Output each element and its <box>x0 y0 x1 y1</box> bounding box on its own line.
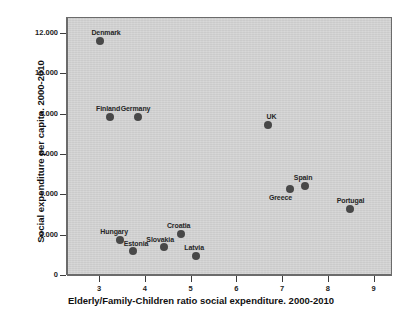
x-axis-tick-label: 6 <box>221 284 251 293</box>
data-point <box>134 113 142 121</box>
data-point <box>129 247 137 255</box>
x-axis-tick-label: 8 <box>313 284 343 293</box>
data-point-label: Denmark <box>91 29 120 37</box>
x-axis-tick <box>145 276 146 282</box>
scatter-chart: DenmarkFinlandGermanyUKGreeceSpainPortug… <box>0 0 402 315</box>
x-axis-tick <box>282 276 283 282</box>
y-axis-tick-label: 0 <box>54 271 58 279</box>
y-axis-tick <box>60 194 66 195</box>
data-point-label: Croatia <box>167 222 190 230</box>
x-axis-tick <box>99 276 100 282</box>
y-axis-tick <box>60 275 66 276</box>
plot-area: DenmarkFinlandGermanyUKGreeceSpainPortug… <box>67 17 392 275</box>
x-axis-title: Elderly/Family-Children ratio social exp… <box>0 295 402 306</box>
y-axis-tick <box>60 235 66 236</box>
x-axis-tick <box>328 276 329 282</box>
data-point <box>264 121 272 129</box>
data-point-label: Hungary <box>100 228 128 236</box>
data-point-label: Greece <box>269 194 292 202</box>
data-point <box>346 205 354 213</box>
data-point-label: Germany <box>121 105 151 113</box>
x-axis-tick <box>374 276 375 282</box>
data-point <box>301 182 309 190</box>
data-point-label: Spain <box>294 174 313 182</box>
x-axis-tick-label: 4 <box>130 284 160 293</box>
x-axis-tick-label: 5 <box>176 284 206 293</box>
data-point <box>96 37 104 45</box>
data-point-label: Portugal <box>337 197 365 205</box>
data-point-label: Estonia <box>124 240 149 248</box>
data-point-label: Finland <box>96 105 120 113</box>
data-point <box>177 230 185 238</box>
y-axis-tick <box>60 73 66 74</box>
x-axis-tick <box>236 276 237 282</box>
x-axis-line <box>67 275 392 276</box>
y-axis-title: Social expenditure per capita. 2000-2010 <box>35 27 46 277</box>
data-point <box>192 252 200 260</box>
data-point-label: Latvia <box>184 244 204 252</box>
y-axis-tick <box>60 114 66 115</box>
data-point-label: Slovakia <box>146 236 174 244</box>
data-point-label: UK <box>267 113 277 121</box>
data-point <box>106 113 114 121</box>
y-axis-tick <box>60 154 66 155</box>
x-axis-tick-label: 7 <box>267 284 297 293</box>
data-point <box>286 185 294 193</box>
data-point <box>160 243 168 251</box>
y-axis-line <box>66 17 67 275</box>
y-axis-tick <box>60 33 66 34</box>
x-axis-tick <box>191 276 192 282</box>
x-axis-tick-label: 3 <box>84 284 114 293</box>
x-axis-tick-label: 9 <box>359 284 389 293</box>
